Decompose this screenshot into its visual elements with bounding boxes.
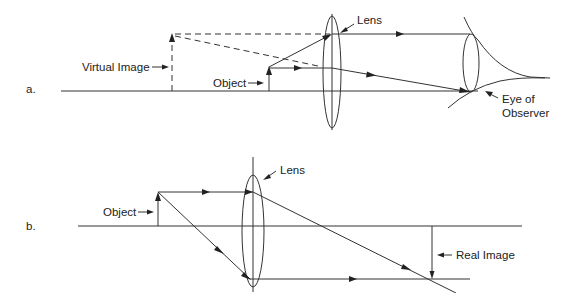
object-arrow-a [266,66,272,91]
ray-lens-to-eye-bottom [332,68,470,93]
lens-pointer-arrow-a [340,24,354,33]
diagram-svg: a. Virtual Image Object [0,0,575,293]
object-pointer-arrow-b [138,210,154,215]
panel-a: a. Virtual Image Object [26,14,550,130]
ray-parallel-to-lens [158,189,253,195]
eye-label-line1: Eye of [502,93,535,105]
eye-label-line2: Observer [502,107,549,119]
lens-pointer-arrow-b [263,171,276,180]
panel-a-label: a. [26,83,36,95]
object-label-a: Object [213,77,247,89]
eye-pointer-arrow [485,91,498,98]
virtual-image-pointer-arrow [152,65,169,70]
real-image-arrow [430,226,435,279]
object-arrow-b [155,192,161,226]
lens-label-b: Lens [280,164,305,176]
ray-object-to-lens-top [269,34,332,67]
panel-b-label: b. [26,220,36,232]
panel-b: b. Object Lens [26,157,522,293]
real-image-label: Real Image [456,249,515,261]
lens-label-a: Lens [357,14,382,26]
optics-diagram: a. Virtual Image Object [0,0,575,293]
virtual-image-label: Virtual Image [82,61,150,73]
ray-lens-to-eye-top [332,31,470,37]
ray-lens-parallel-out [250,276,470,282]
virtual-ray-diagonal [175,36,318,66]
lens-a [323,14,341,130]
lens-b [242,157,264,292]
ray-object-through-focal-point [158,192,251,280]
eye-of-observer [448,17,550,108]
virtual-image-arrow [169,33,175,91]
object-pointer-arrow-a [248,81,264,86]
object-label-b: Object [103,206,137,218]
real-image-pointer-arrow [437,253,452,258]
ray-lens-through-focus [253,192,456,293]
